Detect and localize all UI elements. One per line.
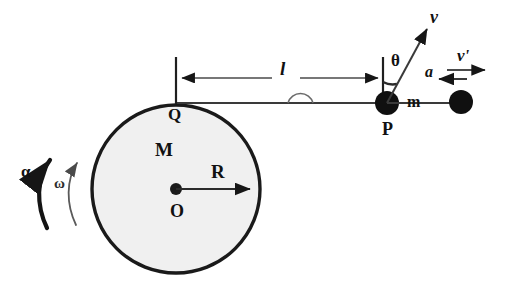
theta-angle-arc	[383, 82, 397, 84]
label-particle-point-p: P	[382, 120, 393, 138]
label-rim-point-q: Q	[168, 106, 181, 123]
label-angle-theta: θ	[391, 52, 400, 69]
diagram-canvas	[0, 0, 513, 293]
label-disk-mass: M	[155, 140, 173, 159]
label-acceleration: a	[425, 64, 433, 80]
label-disk-center-o: O	[170, 202, 184, 220]
label-velocity: v	[430, 8, 438, 26]
label-angular-velocity: ω	[54, 176, 65, 191]
label-disk-radius: R	[211, 162, 225, 181]
label-rod-length: l	[280, 59, 285, 78]
angular-velocity-arc	[69, 163, 77, 225]
label-particle-mass: m	[407, 94, 420, 110]
label-angular-acceleration: α	[21, 163, 31, 180]
physics-diagram-figure: Q M R O α ω l θ v v' a m P	[0, 0, 513, 293]
particle-secondary	[449, 90, 473, 114]
label-velocity-prime: v'	[457, 47, 469, 64]
rod-bump	[288, 94, 313, 103]
angular-acceleration-arc	[39, 160, 50, 228]
